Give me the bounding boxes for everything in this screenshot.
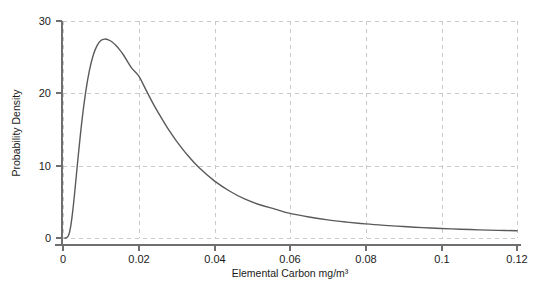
probability-density-plot: 30 20 10 0 0 0.02 0.04 0.06 0.08 0.1 0.1… — [0, 0, 548, 288]
x-tick-label-0.1: 0.1 — [434, 253, 449, 265]
y-axis-title: Probability Density — [10, 89, 22, 177]
y-tick-label-0: 0 — [45, 232, 51, 244]
x-tick-label-0: 0 — [60, 253, 66, 265]
x-tick-label-0.02: 0.02 — [128, 253, 149, 265]
x-axis-title: Elemental Carbon mg/m³ — [232, 267, 349, 279]
chart-figure: 30 20 10 0 0 0.02 0.04 0.06 0.08 0.1 0.1… — [0, 0, 548, 288]
x-tick-label-0.06: 0.06 — [279, 253, 300, 265]
y-tick-label-20: 20 — [39, 87, 51, 99]
x-tick-label-0.04: 0.04 — [204, 253, 225, 265]
x-tick-label-0.08: 0.08 — [355, 253, 376, 265]
x-tick-label-0.12: 0.12 — [506, 253, 527, 265]
y-tick-label-10: 10 — [39, 160, 51, 172]
y-tick-label-30: 30 — [39, 15, 51, 27]
